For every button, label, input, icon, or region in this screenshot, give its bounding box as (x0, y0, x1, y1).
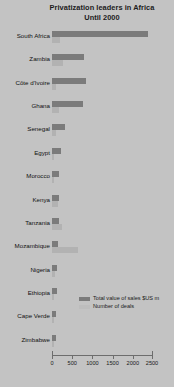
bar-number-of-deals (52, 60, 63, 66)
category-label: Zimbabwe (2, 336, 50, 343)
x-axis-tick-label: 0 (50, 360, 53, 366)
bar-group (52, 241, 153, 253)
bar-number-of-deals (52, 84, 56, 90)
bar-number-of-deals (52, 177, 54, 183)
category-label: Mozambique (2, 242, 50, 249)
x-axis-tick (133, 355, 134, 359)
bar-number-of-deals (52, 317, 54, 323)
bar-chart: Privatization leaders in Africa Until 20… (0, 0, 174, 387)
bar-number-of-deals (52, 224, 62, 230)
bar-number-of-deals (52, 107, 59, 113)
bar-number-of-deals (52, 201, 58, 207)
x-axis-tick (72, 355, 73, 359)
bar-group (52, 311, 153, 323)
chart-title-line1: Privatization leaders in Africa (50, 3, 155, 12)
bar-group (52, 218, 153, 230)
bar-group (52, 124, 153, 136)
bar-number-of-deals (52, 271, 55, 277)
x-axis-end-cap (152, 351, 153, 355)
bar-number-of-deals (52, 37, 60, 43)
x-axis-tick (92, 355, 93, 359)
bar-group (52, 54, 153, 66)
legend-label-number-of-deals: Number of deals (93, 303, 134, 310)
x-axis-tick-label: 2500 (146, 360, 158, 366)
x-axis-end-cap (52, 351, 53, 355)
category-label: Cape Verde (2, 312, 50, 319)
chart-subtitle: Until 2000 (30, 13, 174, 23)
category-label: Senegal (2, 125, 50, 132)
category-label: Ghana (2, 102, 50, 109)
legend-label-total-value: Total value of sales $US m (93, 295, 159, 302)
x-axis-ticks: 05001000150020002500 (52, 355, 153, 369)
bar-group (52, 31, 153, 43)
bar-group (52, 195, 153, 207)
category-label: Kenya (2, 196, 50, 203)
legend-swatch-icon-total-value (79, 297, 90, 301)
bar-number-of-deals (52, 247, 78, 253)
x-axis-tick-label: 1500 (106, 360, 118, 366)
category-label: Morocco (2, 172, 50, 179)
bar-group (52, 171, 153, 183)
bar-group (52, 335, 153, 347)
bar-number-of-deals (52, 341, 54, 347)
x-axis-tick-label: 1000 (86, 360, 98, 366)
category-label: Zambia (2, 55, 50, 62)
legend-swatch-icon-number-of-deals (79, 305, 90, 309)
bar-number-of-deals (52, 130, 56, 136)
bar-number-of-deals (52, 154, 54, 160)
category-label: South Africa (2, 32, 50, 39)
x-axis-tick (113, 355, 114, 359)
bar-group (52, 148, 153, 160)
category-label: Côte d'Ivoire (2, 79, 50, 86)
bar-group (52, 265, 153, 277)
x-axis-tick (52, 355, 53, 359)
legend: Total value of sales $US m Number of dea… (79, 295, 171, 311)
bar-total-value (52, 31, 148, 37)
chart-title: Privatization leaders in Africa Until 20… (30, 3, 174, 22)
bar-total-value (52, 78, 86, 84)
category-label: Tanzania (2, 219, 50, 226)
x-axis-tick (152, 355, 153, 359)
bar-number-of-deals (52, 294, 54, 300)
x-axis-tick-label: 500 (68, 360, 77, 366)
category-label: Egypt (2, 149, 50, 156)
x-axis-tick-label: 2000 (127, 360, 139, 366)
legend-item-number-of-deals: Number of deals (79, 303, 171, 310)
category-label: Nigeria (2, 266, 50, 273)
bar-group (52, 78, 153, 90)
category-label: Ethiopia (2, 289, 50, 296)
category-axis: South AfricaZambiaCôte d'IvoireGhanaSene… (0, 28, 50, 355)
bar-group (52, 101, 153, 113)
legend-item-total-value: Total value of sales $US m (79, 295, 171, 302)
